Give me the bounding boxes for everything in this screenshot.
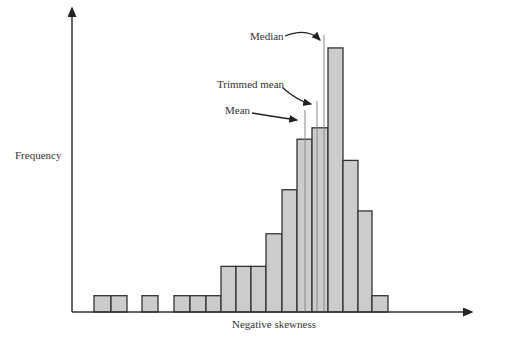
trimmed-mean-label: Trimmed mean xyxy=(217,78,284,90)
x-axis-label: Negative skewness xyxy=(232,318,316,330)
y-axis-label: Frequency xyxy=(15,149,61,161)
histogram-bar xyxy=(142,296,158,312)
median-arrow xyxy=(285,33,320,40)
histogram-bar xyxy=(251,266,266,312)
histogram-bar xyxy=(282,190,297,312)
histogram-bar xyxy=(174,296,190,312)
histogram-chart xyxy=(0,0,508,342)
histogram-bar xyxy=(343,160,358,312)
histogram-bar xyxy=(236,266,251,312)
histogram-bar xyxy=(372,296,388,312)
histogram-bar xyxy=(94,296,111,312)
histogram-bar xyxy=(190,296,206,312)
trimmed-mean-arrow xyxy=(283,88,311,104)
histogram-bar xyxy=(328,48,343,312)
mean-label: Mean xyxy=(225,104,250,116)
histogram-bar xyxy=(266,234,282,312)
histogram-bar xyxy=(221,266,236,312)
mean-arrow xyxy=(252,113,297,120)
histogram-bar xyxy=(111,296,127,312)
histogram-bar xyxy=(312,128,328,312)
median-label: Median xyxy=(250,30,284,42)
histogram-bar xyxy=(358,211,372,312)
histogram-bar xyxy=(206,296,221,312)
